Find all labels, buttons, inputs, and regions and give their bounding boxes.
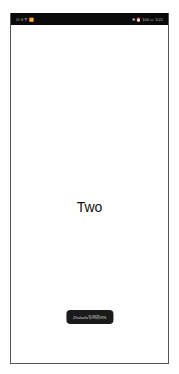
status-left-icons: ⊡ ≋ ᯤ 📶	[16, 17, 34, 22]
screen-content: Two Zhulanlu专用的RN	[11, 25, 168, 363]
notification-icons: ⊡ ≋ ᯤ 📶	[16, 17, 34, 22]
screen-title: Two	[11, 199, 168, 215]
status-right-info: ✱ ⏰ 100 ▭ 3:21	[132, 17, 163, 22]
phone-frame: ⊡ ≋ ᯤ 📶 ✱ ⏰ 100 ▭ 3:21 Two Zhulanlu专用的RN	[10, 13, 169, 364]
status-bar: ⊡ ≋ ᯤ 📶 ✱ ⏰ 100 ▭ 3:21	[11, 13, 168, 25]
status-time-battery: ✱ ⏰ 100 ▭ 3:21	[132, 17, 163, 22]
toast-message: Zhulanlu专用的RN	[66, 310, 113, 324]
